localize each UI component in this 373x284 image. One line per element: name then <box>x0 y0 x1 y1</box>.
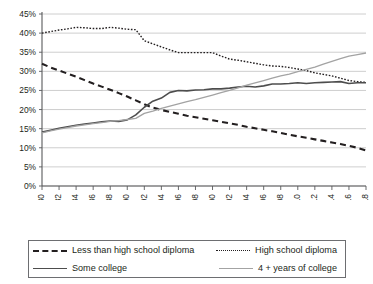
legend-item-four-plus-years-college: 4 + years of college <box>198 263 345 273</box>
legend-label: Some college <box>72 263 127 273</box>
series-line-less-than-high-school <box>42 64 366 151</box>
x-axis-tick-label: 1996 <box>173 194 183 200</box>
legend-item-high-school: High school diploma <box>198 245 345 255</box>
x-axis-tick-label: 2000 <box>207 194 217 200</box>
x-axis-tick-label: 2016 <box>343 194 353 200</box>
light-line-swatch-icon <box>219 263 253 273</box>
x-axis-tick-label: 2010 <box>292 194 302 200</box>
y-axis-tick-label: 10% <box>19 143 36 153</box>
y-axis-tick-label: 5% <box>24 162 37 172</box>
x-axis-tick-label: 2014 <box>326 194 336 200</box>
y-axis-tick-label: 20% <box>19 105 36 115</box>
y-axis-tick-label: 40% <box>19 28 36 38</box>
x-axis-tick-label: 1998 <box>190 194 200 200</box>
plot-area: 45%40%35%30%25%20%15%10%5%0%198019821984… <box>0 0 373 200</box>
legend-item-some-college: Some college <box>29 263 198 273</box>
series-line-high-school-diploma <box>42 27 366 82</box>
series-line-four-plus-years-college <box>42 53 366 133</box>
y-axis-tick-label: 15% <box>19 124 36 134</box>
dashed-line-swatch-icon <box>33 245 67 255</box>
x-axis-tick-label: 1994 <box>156 194 166 200</box>
x-axis-tick-label: 1992 <box>139 194 149 200</box>
dotted-line-swatch-icon <box>216 245 250 255</box>
solid-line-swatch-icon <box>33 263 67 273</box>
legend-label: Less than high school diploma <box>72 245 194 255</box>
x-axis-tick-label: 1988 <box>104 194 114 200</box>
y-axis-tick-label: 45% <box>19 9 36 19</box>
line-chart: 45%40%35%30%25%20%15%10%5%0%198019821984… <box>0 0 373 284</box>
chart-legend: Less than high school diploma High schoo… <box>28 240 346 278</box>
legend-item-less-than-high-school: Less than high school diploma <box>29 245 198 255</box>
x-axis-tick-label: 1980 <box>36 194 46 200</box>
legend-label: High school diploma <box>255 245 337 255</box>
x-axis-tick-label: 1990 <box>121 194 131 200</box>
x-axis-tick-label: 2012 <box>309 194 319 200</box>
y-axis-tick-label: 25% <box>19 85 36 95</box>
x-axis-tick-label: 1986 <box>87 194 97 200</box>
x-axis-tick-label: 1984 <box>70 194 80 200</box>
x-axis-tick-label: 2002 <box>224 194 234 200</box>
x-axis-tick-label: 1982 <box>53 194 63 200</box>
y-axis-tick-label: 30% <box>19 66 36 76</box>
x-axis-tick-label: 2008 <box>275 194 285 200</box>
y-axis-tick-label: 0% <box>24 181 37 191</box>
legend-label: 4 + years of college <box>258 263 337 273</box>
chart-svg: 45%40%35%30%25%20%15%10%5%0%198019821984… <box>0 0 373 200</box>
x-axis-tick-label: 2004 <box>241 194 251 200</box>
x-axis-tick-label: 2018 <box>360 194 370 200</box>
y-axis-tick-label: 35% <box>19 47 36 57</box>
x-axis-tick-label: 2006 <box>258 194 268 200</box>
